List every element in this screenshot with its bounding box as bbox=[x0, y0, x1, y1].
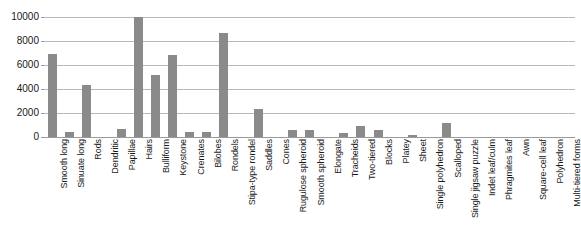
y-tick-label: 8000 bbox=[0, 36, 39, 46]
x-tick-label: Rugulose spheroid bbox=[296, 139, 305, 212]
x-tick-label: Two-tiered bbox=[365, 139, 374, 180]
bar bbox=[117, 129, 126, 137]
x-tick-label: Smooth long bbox=[57, 139, 66, 188]
x-tick-label: Phragmites leaf bbox=[502, 139, 511, 200]
x-tick-label: Scalloped bbox=[451, 139, 460, 178]
gridline bbox=[44, 41, 575, 42]
x-tick-label: Cones bbox=[279, 139, 288, 165]
x-tick-label: Keystone bbox=[176, 139, 185, 176]
gridline bbox=[44, 113, 575, 114]
x-tick-label: Stipa-type rondel bbox=[245, 139, 254, 205]
bar bbox=[82, 85, 91, 137]
bar bbox=[168, 55, 177, 137]
x-tick-label: Single jigsaw puzzle bbox=[468, 139, 477, 218]
x-tick-label: Multi-tiered forms bbox=[570, 139, 579, 207]
bar bbox=[408, 135, 417, 137]
y-tick-label: 10000 bbox=[0, 12, 39, 22]
x-tick-label: Saddles bbox=[262, 139, 271, 171]
bar bbox=[305, 130, 314, 137]
x-tick-label: Bulliform bbox=[159, 139, 168, 173]
x-tick-label: Indet leaf/culm bbox=[485, 139, 494, 196]
y-tick-label: 4000 bbox=[0, 84, 39, 94]
bar-chart-figure: 0200040006000800010000 Smooth longSinuat… bbox=[0, 0, 581, 251]
x-tick-label: Elongate bbox=[331, 139, 340, 174]
x-tick-label: Dendritic bbox=[108, 139, 117, 174]
y-tick-label: 2000 bbox=[0, 108, 39, 118]
bar bbox=[356, 126, 365, 137]
x-tick-label: Blocks bbox=[382, 139, 391, 165]
x-tick-label: Square-cell leaf bbox=[536, 139, 545, 200]
x-tick-label: Tracheids bbox=[348, 139, 357, 177]
x-tick-label: Smooth spheroid bbox=[314, 139, 323, 206]
bar bbox=[65, 132, 74, 137]
bar bbox=[134, 17, 143, 137]
x-tick-label: Rods bbox=[91, 139, 100, 160]
x-tick-label: Polyhedron bbox=[553, 139, 562, 184]
gridline bbox=[44, 89, 575, 90]
x-tick-label: Sinuate long bbox=[74, 139, 83, 188]
bar bbox=[202, 132, 211, 137]
bar bbox=[374, 130, 383, 137]
bar bbox=[339, 133, 348, 137]
x-tick-label: Sheet bbox=[416, 139, 425, 162]
bar bbox=[254, 109, 263, 137]
bar bbox=[151, 75, 160, 137]
x-tick-label: Papillae bbox=[125, 139, 134, 170]
x-tick-label: Hairs bbox=[142, 139, 151, 160]
bar bbox=[288, 130, 297, 137]
bar bbox=[442, 123, 451, 137]
plot-area bbox=[44, 17, 575, 137]
x-tick-label: Platey bbox=[399, 139, 408, 163]
y-tick-label: 6000 bbox=[0, 60, 39, 70]
x-tick-label: Bilobes bbox=[211, 139, 220, 168]
gridline bbox=[44, 17, 575, 18]
x-tick-label: Awn bbox=[519, 139, 528, 156]
x-tick-label: Crenates bbox=[194, 139, 203, 175]
y-tick-label: 0 bbox=[0, 132, 39, 142]
x-tick-label: Single polyhedron bbox=[433, 139, 442, 209]
x-axis-category-labels: Smooth longSinuate longRodsDendriticPapi… bbox=[44, 139, 575, 251]
x-axis-line bbox=[44, 137, 575, 138]
bar bbox=[48, 54, 57, 137]
x-tick-label: Rondels bbox=[228, 139, 237, 171]
bar bbox=[185, 132, 194, 137]
gridline bbox=[44, 65, 575, 66]
bar bbox=[219, 33, 228, 137]
